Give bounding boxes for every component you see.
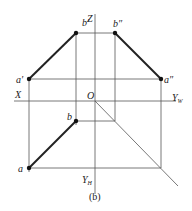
orthographic-projection-diagram: b′ Z b″ a′ a″ X O YW b a YH (b) xyxy=(0,0,192,211)
label-a: a xyxy=(18,163,23,174)
label-b: b xyxy=(67,111,72,122)
label-b-double-prime: b″ xyxy=(113,18,123,29)
label-a-double-prime: a″ xyxy=(164,74,174,85)
label-z: Z xyxy=(87,13,93,24)
label-origin: O xyxy=(87,90,94,101)
label-yw: YW xyxy=(172,92,184,104)
label-a-prime: a′ xyxy=(16,74,24,85)
point-a xyxy=(27,166,31,170)
caption: (b) xyxy=(89,191,101,203)
segment-a-prime-b-prime xyxy=(29,33,76,79)
point-a-double-prime xyxy=(159,77,163,81)
segment-b-double-prime-a-double-prime xyxy=(115,33,161,79)
segment-a-b xyxy=(29,121,76,168)
label-x: X xyxy=(14,89,22,100)
point-b-double-prime xyxy=(113,31,117,35)
point-b-prime xyxy=(74,31,78,35)
point-a-prime xyxy=(27,77,31,81)
label-yh: YH xyxy=(82,174,93,186)
diagonal-45-line xyxy=(95,101,178,186)
point-b xyxy=(74,119,78,123)
